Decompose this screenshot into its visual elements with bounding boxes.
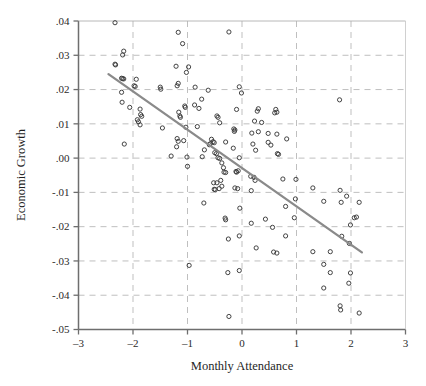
data-point [348,223,352,227]
data-point [193,85,197,89]
x-tick-label: 3 [403,337,409,349]
data-point [227,30,231,34]
data-point [221,166,225,170]
y-tick-label: -.04 [52,289,70,301]
data-point [234,107,238,111]
data-point [328,250,332,254]
y-tick-label: -.01 [52,186,69,198]
data-point [220,161,224,165]
regression-line [108,74,361,252]
data-point [195,124,199,128]
y-tick-label: -.05 [52,323,70,335]
data-point [328,271,332,275]
data-point [192,103,196,107]
fit-line [108,74,361,252]
data-point [224,140,228,144]
data-point [357,200,361,204]
data-point [322,199,326,203]
data-point [285,137,289,141]
data-point [256,130,260,134]
y-tick-label: .02 [56,83,70,95]
x-tick-label: 0 [239,337,245,349]
data-point [311,186,315,190]
data-point [175,145,179,149]
data-point [180,42,184,46]
data-point [254,148,258,152]
data-point [206,88,210,92]
data-point [347,281,351,285]
data-point [260,120,264,124]
data-point [250,131,254,135]
x-tick-label: –1 [181,337,193,349]
data-point [339,200,343,204]
data-point [322,262,326,266]
data-point [249,221,253,225]
data-point [176,30,180,34]
y-axis-title: Economic Growth [14,128,28,221]
data-point [119,90,123,94]
data-point [184,70,188,74]
y-tick-label: -.02 [52,220,69,232]
data-point [160,126,164,130]
data-point [202,148,206,152]
data-point [311,250,315,254]
data-point [284,204,288,208]
data-point [237,85,241,89]
data-point [182,139,186,143]
data-point [252,119,256,123]
data-points [113,21,361,319]
data-point [219,178,223,182]
data-point [251,142,255,146]
data-point [202,201,206,205]
data-point [185,155,189,159]
data-point [237,268,241,272]
x-tick-label: 2 [348,337,354,349]
data-point [169,154,173,158]
data-point [266,131,270,135]
y-tick-label: .00 [56,152,70,164]
data-point [236,187,240,191]
data-point [322,286,326,290]
data-point [226,237,230,241]
data-point [345,194,349,198]
data-point [294,177,298,181]
data-point [138,107,142,111]
data-point [270,225,274,229]
scatter-plot: .04.03.02.01.00-.01-.02-.03-.04-.05–3–2–… [0,0,426,386]
data-point [339,308,343,312]
data-point [128,105,132,109]
data-point [281,177,285,181]
data-point [284,234,288,238]
data-point [338,188,342,192]
data-point [275,132,279,136]
data-point [174,64,178,68]
data-point [218,121,222,125]
x-tick-label: –3 [72,337,85,349]
data-point [227,314,231,318]
data-point [226,271,230,275]
data-point [237,234,241,238]
y-tick-label: .03 [56,49,70,61]
data-point [200,97,204,101]
x-tick-label: –2 [127,337,139,349]
data-point [120,100,124,104]
axis-ticks [74,21,406,335]
y-tick-label: .01 [56,118,70,130]
y-tick-label: -.03 [52,255,70,267]
data-point [337,98,341,102]
data-point [263,217,267,221]
grid-lines [79,21,406,330]
y-tick-label: .04 [56,15,70,27]
tick-labels: .04.03.02.01.00-.01-.02-.03-.04-.05–3–2–… [52,15,409,349]
data-point [269,143,273,147]
data-point [122,142,126,146]
data-point [197,106,201,110]
x-tick-label: 1 [294,337,300,349]
chart-container: .04.03.02.01.00-.01-.02-.03-.04-.05–3–2–… [0,0,426,386]
data-point [249,189,253,193]
data-point [357,311,361,315]
data-point [220,184,224,188]
data-point [254,246,258,250]
data-point [292,216,296,220]
data-point [239,91,243,95]
